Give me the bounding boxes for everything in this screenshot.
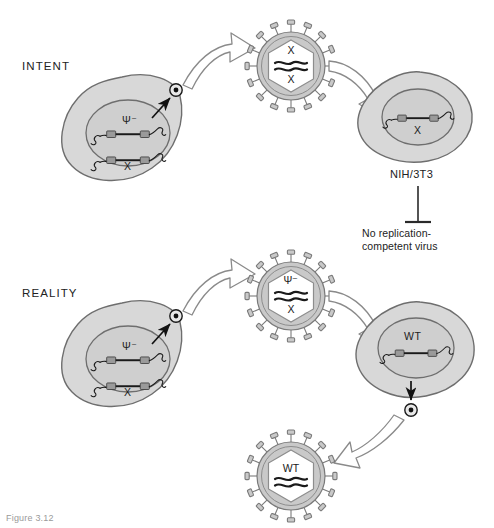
intent-target-cell [358,72,472,162]
row-label-intent: INTENT [22,60,70,72]
intent-target-construct-label-x: X [414,124,422,136]
intent-producer-cell [62,75,182,181]
intent-construct-label-x: X [124,160,132,172]
outcome-text-line1: No replication- [362,227,438,240]
reality-construct-label-psi: Ψ⁻ [122,340,138,352]
reality-progeny-arrow [334,415,404,468]
reality-target-cell [356,302,474,398]
reality-producer-cell [62,301,182,407]
intent-inhibition-arrow [405,186,431,222]
intent-virion-top-label: X [287,44,294,56]
intent-construct-label-psi: Ψ⁻ [122,114,138,126]
figure-caption: Figure 3.12 [6,513,54,523]
reality-virion-bottom-label: X [287,303,294,315]
diagram-svg: X X [0,0,494,528]
reality-virion-top-label: Ψ⁻ [284,274,299,286]
cell-line-label-nih3t3: NIH/3T3 [390,168,433,180]
reality-release-arrow [183,259,255,315]
intent-release-arrow [183,33,255,89]
intent-virion-bottom-label: X [287,73,294,85]
progeny-virion-label: WT [283,462,300,474]
reality-virion: Ψ⁻ X [245,250,337,342]
reality-construct-label-x: X [124,386,132,398]
reality-target-construct-label-wt: WT [404,330,422,342]
reality-progeny-virion: WT [245,430,337,522]
outcome-text-line2: competent virus [362,240,438,253]
intent-virion: X X [245,20,337,112]
row-label-reality: REALITY [22,287,78,299]
outcome-text: No replication- competent virus [362,227,438,252]
figure-canvas: X X [0,0,494,528]
